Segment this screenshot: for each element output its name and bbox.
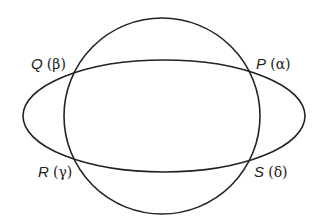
point-name-p: P [256,55,266,72]
point-name-s: S [254,163,264,180]
point-label-q: Q (β) [31,56,66,71]
point-label-s: S (δ) [254,164,288,179]
point-name-q: Q [31,55,43,72]
point-greek-s: (δ) [268,164,287,180]
point-label-p: P (α) [256,56,291,71]
diagram-shapes [0,0,321,220]
point-greek-r: (γ) [53,164,72,180]
point-greek-q: (β) [47,56,66,72]
point-name-r: R [38,163,49,180]
ellipse-shape [23,60,305,172]
diagram-canvas: Q (β) P (α) R (γ) S (δ) [0,0,321,220]
circle-shape [64,18,260,214]
point-label-r: R (γ) [38,164,72,179]
point-greek-p: (α) [270,56,290,72]
